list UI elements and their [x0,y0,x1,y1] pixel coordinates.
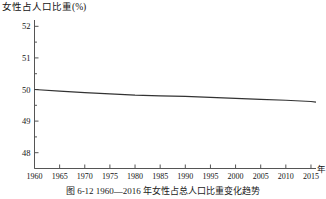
x-tick-label: 1980 [127,172,143,181]
x-tick-label: 1985 [152,172,168,181]
x-tick-label: 2005 [253,172,269,181]
axes-group [35,20,317,169]
line-chart-plot: 4849505152 19601965197019751980198519901… [0,0,326,186]
x-tick-label: 1995 [202,172,218,181]
x-tick-label: 1960 [27,172,43,181]
data-series-group [35,90,317,103]
x-tick-label: 1970 [77,172,93,181]
x-tick-label: 1990 [177,172,193,181]
y-tick-label: 49 [22,116,31,126]
y-tick-group: 4849505152 [22,21,39,168]
x-axis-unit-label: 年 [317,164,326,174]
y-tick-label: 50 [22,85,31,95]
x-tick-label: 2000 [228,172,244,181]
y-tick-label: 52 [22,21,31,31]
x-tick-label: 1965 [52,172,68,181]
y-tick-label: 48 [22,148,31,158]
x-tick-group: 1960196519701975198019851990199520002005… [27,165,319,181]
series-line-female-share [35,90,317,103]
figure-caption: 图 6-12 1960—2016 年女性占总人口比重变化趋势 [0,186,326,197]
x-tick-label: 2010 [278,172,294,181]
x-tick-label: 1975 [102,172,118,181]
figure-container: 女性占人口比重(%) 4849505152 196019651970197519… [0,0,326,199]
y-tick-label: 51 [22,53,31,63]
